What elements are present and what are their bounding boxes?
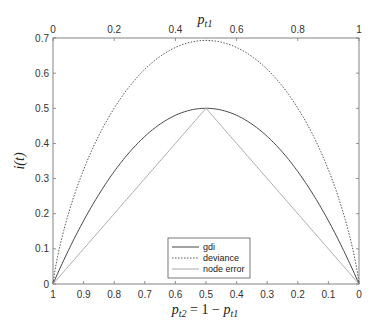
bottom-x-tick-label: 0.8 — [107, 289, 121, 300]
top-x-tick-label: 0.4 — [168, 24, 182, 35]
top-x-tick-label: 1 — [356, 24, 362, 35]
legend-label-node-error: node error — [203, 264, 245, 274]
y-tick-label: 0.3 — [35, 173, 49, 184]
bottom-x-tick-label: 0.9 — [77, 289, 91, 300]
y-tick-label: 0.6 — [35, 68, 49, 79]
bottom-x-tick-label: 0 — [356, 289, 362, 300]
y-tick-label: 0.1 — [35, 243, 49, 254]
impurity-chart: 00.20.40.60.8110.90.80.70.60.50.40.30.20… — [0, 0, 382, 329]
legend-label-gdi: gdi — [203, 242, 215, 252]
top-x-tick-label: 0.8 — [291, 24, 305, 35]
y-tick-label: 0.7 — [35, 33, 49, 44]
top-x-axis-label: pt1 — [197, 12, 213, 29]
bottom-x-tick-label: 0.7 — [138, 289, 152, 300]
bottom-x-tick-label: 0.6 — [168, 289, 182, 300]
top-x-tick-label: 0.6 — [230, 24, 244, 35]
y-tick-label: 0 — [43, 279, 49, 290]
bottom-x-tick-label: 1 — [50, 289, 56, 300]
bottom-x-tick-label: 0.2 — [291, 289, 305, 300]
bottom-x-tick-label: 0.4 — [230, 289, 244, 300]
bottom-x-tick-label: 0.3 — [260, 289, 274, 300]
bottom-x-axis-label: pt2 = 1 − pt1 — [171, 302, 238, 319]
top-x-tick-label: 0.2 — [107, 24, 121, 35]
bottom-x-tick-label: 0.5 — [199, 289, 213, 300]
y-tick-label: 0.4 — [35, 138, 49, 149]
legend: gdi deviance node error — [168, 238, 250, 278]
y-tick-label: 0.5 — [35, 103, 49, 114]
y-axis-label: i(t) — [12, 152, 28, 169]
top-x-tick-label: 0 — [50, 24, 56, 35]
y-tick-label: 0.2 — [35, 208, 49, 219]
bottom-x-tick-label: 0.1 — [321, 289, 335, 300]
legend-label-deviance: deviance — [203, 253, 239, 263]
